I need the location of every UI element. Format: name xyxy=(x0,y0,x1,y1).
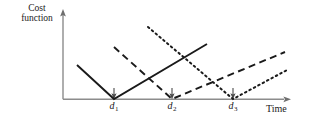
cost-curve-dashed xyxy=(114,47,285,99)
y-axis-label: Cost function xyxy=(12,3,62,24)
y-axis-label-line-2: function xyxy=(12,13,62,23)
x-tick-label-d2: d2 xyxy=(168,101,177,113)
cost-function-figure: Cost function Time d1 d2 d3 xyxy=(0,0,319,124)
x-tick-label-d1: d1 xyxy=(110,101,119,113)
x-tick-label-d2-sub: 2 xyxy=(173,105,177,113)
x-tick-label-d3: d3 xyxy=(229,101,238,113)
x-tick-label-d1-sub: 1 xyxy=(115,105,119,113)
x-axis-label: Time xyxy=(266,104,287,115)
y-axis-label-line-1: Cost xyxy=(12,3,62,13)
x-axis-arrowhead xyxy=(283,96,291,102)
cost-curve-dotted xyxy=(148,27,287,99)
x-tick-label-d3-sub: 3 xyxy=(234,105,238,113)
